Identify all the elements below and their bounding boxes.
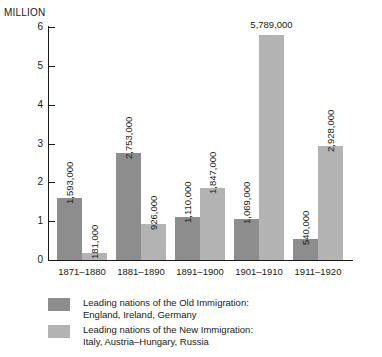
bar — [175, 217, 200, 260]
bar — [200, 188, 225, 260]
y-axis-tick — [49, 260, 55, 261]
legend-label-line: Leading nations of the Old Immigration: — [83, 297, 249, 309]
y-axis-tick — [49, 105, 55, 106]
bar-value-label: 1,110,000 — [183, 181, 193, 223]
y-axis-tick — [49, 182, 55, 183]
x-axis-category-label: 1871–1880 — [52, 266, 112, 277]
y-axis-tick — [49, 221, 55, 222]
bar-value-label: 2,928,000 — [326, 110, 336, 152]
y-axis-tick-label: 1 — [23, 216, 43, 226]
legend-label: Leading nations of the New Immigration:I… — [83, 324, 253, 347]
bar — [116, 153, 141, 260]
y-axis-tick-label: 4 — [23, 100, 43, 110]
bar-value-label: 1,069,000 — [242, 182, 252, 224]
y-axis-tick-label: 6 — [23, 22, 43, 32]
y-axis-tick — [49, 66, 55, 67]
x-axis-category-label: 1911–1920 — [288, 266, 348, 277]
bar-value-label: 5,789,000 — [250, 20, 292, 30]
y-axis-tick-label: 3 — [23, 139, 43, 149]
legend-label-line: Italy, Austria–Hungary, Russia — [83, 336, 253, 348]
y-axis-tick — [49, 144, 55, 145]
x-axis-category-label: 1901–1910 — [229, 266, 289, 277]
bar-value-label: 926,000 — [149, 196, 159, 230]
x-axis-category-label: 1881–1890 — [111, 266, 171, 277]
legend-swatch — [48, 325, 70, 338]
legend-row: Leading nations of the New Immigration:I… — [48, 324, 368, 347]
bar — [234, 219, 259, 261]
x-axis-category-label: 1891–1900 — [170, 266, 230, 277]
legend-label: Leading nations of the Old Immigration:E… — [83, 297, 249, 320]
plot-area: 0123456 1,593,000181,0002,753,000926,000… — [48, 26, 353, 261]
immigration-bar-chart: MILLION 0123456 1,593,000181,0002,753,00… — [0, 0, 382, 357]
legend-swatch — [48, 298, 70, 311]
legend-label-line: Leading nations of the New Immigration: — [83, 324, 253, 336]
y-axis-unit-caption: MILLION — [4, 7, 45, 18]
bar-value-label: 2,753,000 — [124, 117, 134, 159]
bar — [57, 198, 82, 260]
bar-value-label: 540,000 — [301, 211, 311, 245]
y-axis-tick-label: 2 — [23, 177, 43, 187]
y-axis-tick — [49, 27, 55, 28]
bar — [318, 146, 343, 260]
y-axis-tick-label: 0 — [23, 255, 43, 265]
x-axis-line — [48, 260, 353, 261]
bar-value-label: 1,847,000 — [208, 152, 218, 194]
bar-value-label: 181,000 — [90, 225, 100, 259]
bar-value-label: 1,593,000 — [65, 162, 75, 204]
legend-row: Leading nations of the Old Immigration:E… — [48, 297, 368, 320]
legend-label-line: England, Ireland, Germany — [83, 309, 249, 321]
bar — [259, 35, 284, 260]
chart-legend: Leading nations of the Old Immigration:E… — [48, 297, 368, 351]
y-axis-tick-label: 5 — [23, 61, 43, 71]
